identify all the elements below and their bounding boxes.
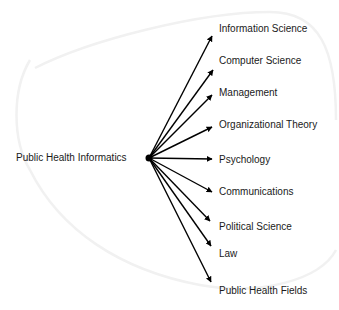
background-curve-bottom xyxy=(17,60,337,288)
target-label-organizational-theory: Organizational Theory xyxy=(219,119,317,131)
arrow-to-political-science xyxy=(149,158,210,221)
arrow-to-management xyxy=(149,95,212,158)
edges-group xyxy=(149,36,213,282)
background-swoosh xyxy=(17,12,337,288)
hub-node xyxy=(146,155,153,162)
target-label-law: Law xyxy=(219,248,237,260)
arrow-to-public-health-fields xyxy=(149,158,211,282)
target-label-management: Management xyxy=(219,87,277,99)
target-label-psychology: Psychology xyxy=(219,154,270,166)
arrow-to-psychology xyxy=(149,158,212,159)
target-label-public-health-fields: Public Health Fields xyxy=(219,285,307,297)
arrow-to-information-science xyxy=(149,36,212,158)
source-node-label: Public Health Informatics xyxy=(16,152,127,164)
arrow-to-organizational-theory xyxy=(149,127,212,158)
arrow-to-computer-science xyxy=(149,70,213,158)
target-label-information-science: Information Science xyxy=(219,23,307,35)
target-label-political-science: Political Science xyxy=(219,221,292,233)
target-label-communications: Communications xyxy=(219,186,293,198)
target-label-computer-science: Computer Science xyxy=(219,55,301,67)
arrow-to-law xyxy=(149,158,211,246)
arrow-to-communications xyxy=(149,158,212,192)
